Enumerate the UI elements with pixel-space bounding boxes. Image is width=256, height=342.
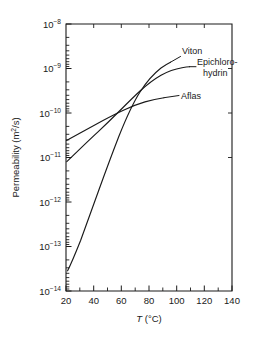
permeability-chart-figure: 10−8 10−9 10−10 10−11 10−12 10−13 10−14 <box>0 0 256 342</box>
svg-text:10−13: 10−13 <box>39 240 61 252</box>
svg-text:10−9: 10−9 <box>43 62 61 74</box>
x-axis-major-ticks <box>66 286 232 292</box>
curve-label-epichlorohydrin-line2: hydrin <box>203 68 228 78</box>
svg-text:T (°C): T (°C) <box>136 313 161 324</box>
svg-text:10−8: 10−8 <box>43 18 61 30</box>
xtick-label-120: 120 <box>196 295 212 306</box>
xtick-label-40: 40 <box>88 295 99 306</box>
curve-label-aflas: Aflas <box>181 91 202 101</box>
y-axis-title-text: Permeability (m <box>10 132 21 198</box>
svg-text:10−10: 10−10 <box>39 107 61 119</box>
ytick-mantissa-1: 10 <box>43 63 54 74</box>
ytick-mantissa-2: 10 <box>39 108 50 119</box>
ytick-exponent-5: −13 <box>50 240 62 247</box>
ytick-exponent-2: −10 <box>50 107 62 114</box>
ytick-exponent-0: −8 <box>53 18 61 25</box>
leader-viton <box>171 57 181 63</box>
ytick-mantissa-5: 10 <box>39 241 50 252</box>
ytick-mantissa-6: 10 <box>39 286 50 297</box>
curve-labels: Viton Epichloro- hydrin Aflas <box>181 46 238 101</box>
chart-svg: 10−8 10−9 10−10 10−11 10−12 10−13 10−14 <box>0 0 256 342</box>
svg-text:Permeability (m2/s): Permeability (m2/s) <box>10 117 21 197</box>
ytick-exponent-6: −14 <box>50 285 62 292</box>
series-viton <box>68 62 171 271</box>
ytick-mantissa-0: 10 <box>43 19 54 30</box>
xtick-label-100: 100 <box>169 295 185 306</box>
leader-aflas <box>164 96 179 98</box>
ytick-exponent-1: −9 <box>53 62 61 69</box>
svg-text:10−12: 10−12 <box>39 196 61 208</box>
xtick-label-20: 20 <box>61 295 72 306</box>
ytick-exponent-3: −11 <box>50 151 61 158</box>
svg-text:10−14: 10−14 <box>39 285 61 297</box>
series-aflas <box>67 98 165 141</box>
x-axis-title: T (°C) <box>136 313 161 324</box>
y-axis-title: Permeability (m2/s) <box>10 117 21 197</box>
xtick-label-60: 60 <box>116 295 127 306</box>
x-axis-tick-labels: 20 40 60 80 100 120 140 <box>61 295 240 306</box>
svg-text:10−11: 10−11 <box>40 151 62 163</box>
xtick-label-80: 80 <box>144 295 155 306</box>
top-axis-ticks <box>94 24 205 28</box>
curve-label-viton: Viton <box>182 46 202 56</box>
ytick-exponent-4: −12 <box>50 196 62 203</box>
right-axis-ticks <box>228 69 232 158</box>
xtick-label-140: 140 <box>224 295 240 306</box>
x-axis-title-units: (°C) <box>145 313 162 324</box>
ytick-mantissa-3: 10 <box>40 152 51 163</box>
curve-label-epichlorohydrin-line1: Epichloro- <box>197 57 238 67</box>
ytick-mantissa-4: 10 <box>39 197 50 208</box>
y-axis-tick-labels: 10−8 10−9 10−10 10−11 10−12 10−13 10−14 <box>39 18 61 297</box>
